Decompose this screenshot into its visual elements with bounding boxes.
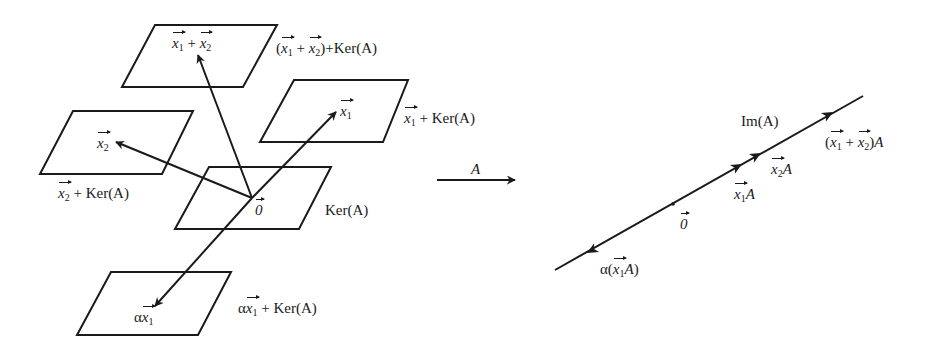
label-image: Im(A) [741, 114, 779, 129]
label-alphaA: α(x1A) [600, 262, 639, 279]
vector-to-alpha [155, 198, 252, 306]
label-image-origin: 0 [680, 217, 688, 232]
label-x2-coset: x2 + Ker(A) [58, 186, 129, 203]
label-zero-inner: 0 [255, 203, 263, 218]
linear-map-diagram: x1 + x2 (x1 + x2)+Ker(A) x1 x1 + Ker(A) … [0, 0, 932, 358]
origin-dot-icon [671, 202, 675, 206]
label-map-A: A [471, 162, 480, 177]
plane-x1 [260, 80, 408, 142]
label-x2-inner: x2 [97, 136, 109, 153]
label-sum-inner: x1 + x2 [172, 36, 211, 53]
image-subspace-line [555, 96, 863, 270]
label-x1A: x1A [734, 187, 755, 204]
arrowhead-alphaA-icon [587, 243, 599, 253]
coset-vectors [116, 55, 336, 306]
diagram-canvas [0, 0, 932, 358]
label-ker: Ker(A) [325, 203, 368, 218]
image-line [555, 96, 863, 270]
label-alpha-inner: αx1 [134, 310, 154, 327]
arrowhead-x2A-icon [749, 153, 761, 163]
label-alpha-coset: αx1 + Ker(A) [238, 301, 317, 318]
label-sumA: (x1 + x2)A [825, 135, 883, 152]
label-x2A: x2A [771, 162, 792, 179]
arrowhead-sumA-icon [821, 112, 833, 122]
label-sum-coset: (x1 + x2)+Ker(A) [276, 41, 377, 58]
coset-planes [40, 25, 408, 335]
arrowhead-x1A-icon [730, 164, 742, 174]
label-x1-inner: x1 [340, 104, 352, 121]
label-x1-coset: x1 + Ker(A) [404, 111, 475, 128]
vector-to-x2 [116, 142, 252, 198]
vector-to-x1 [252, 112, 336, 198]
vector-to-sum [198, 55, 252, 198]
